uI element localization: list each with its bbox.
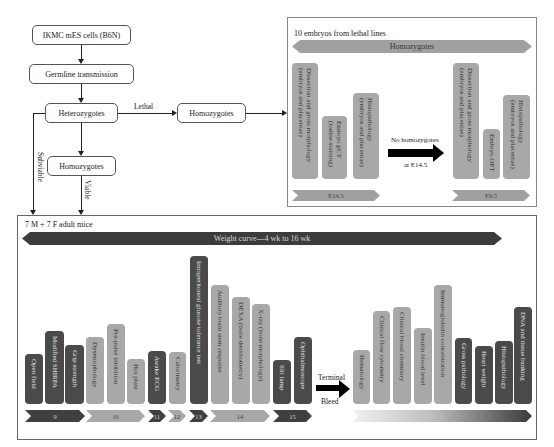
test-bar-clinical-flow-cytometry: Clinical flow cytometry bbox=[373, 311, 390, 404]
test-bar-slit-lamp: Slit lamp bbox=[273, 360, 291, 404]
test-bar-heart-weight: Heart weight bbox=[475, 346, 493, 404]
test-label: Hematology bbox=[358, 350, 366, 390]
test-label: Intraperitoneal glucose tolerance test bbox=[195, 256, 203, 364]
test-bar-grip-strength: Grip strength bbox=[65, 345, 84, 404]
lethal-connector bbox=[118, 113, 172, 114]
test-label: Clinical blood chemistry bbox=[398, 307, 406, 381]
weight-curve-label: Weight curve—4 wk to 16 wk bbox=[214, 234, 310, 243]
week-14-chevron: 14 bbox=[210, 410, 270, 422]
viable-connector bbox=[81, 176, 82, 210]
test-label: Auditory brain stem response bbox=[216, 285, 224, 373]
test-bar-embryo-uct: Embryo μCT (iodine staining) bbox=[322, 116, 347, 179]
test-label: Modified SHIRPA bbox=[51, 331, 59, 388]
homozygotes-lethal-box: Homozygotes bbox=[177, 103, 246, 123]
test-bar-gross-pathology: Gross pathology bbox=[455, 338, 472, 404]
connector-line bbox=[81, 84, 82, 98]
test-label: Slit lamp bbox=[278, 360, 286, 390]
test-label: Heart weight bbox=[480, 346, 488, 387]
test-label: Clinical flow cytometry bbox=[378, 311, 386, 383]
adult-panel-title: 7 M + 7 F adult mice bbox=[25, 220, 93, 229]
ikmc-cells-box: IKMC mES cells (B6N) bbox=[32, 25, 131, 45]
at-e145-label: at E14.5 bbox=[404, 161, 427, 169]
lethal-label: Lethal bbox=[134, 102, 153, 111]
terminal-bleed-arrow-icon bbox=[316, 385, 340, 391]
week-label: 14 bbox=[237, 413, 244, 420]
homozygotes-lethal-label: Homozygotes bbox=[189, 109, 233, 118]
connector-line bbox=[81, 123, 82, 151]
test-bar-auditory-brainstem: Auditory brain stem response bbox=[211, 285, 229, 404]
test-bar-xray: X-ray (bone morphology) bbox=[252, 304, 270, 404]
week-9-chevron: 9 bbox=[25, 410, 85, 422]
stage-e95-label: E9.5 bbox=[485, 192, 497, 199]
test-label: Histopathology bbox=[500, 341, 508, 389]
test-label: Dysmorphology bbox=[91, 337, 99, 388]
test-label: DEXA (bone densitometry) bbox=[237, 297, 245, 379]
test-bar-histopathology-e145: Histopathology (embryos and placentae) bbox=[353, 93, 379, 179]
test-bar-pre-pulse-inhibition: Pre-pulse inhibition bbox=[107, 324, 125, 404]
test-bar-open-field: Open field bbox=[25, 354, 43, 404]
test-bar-hot-plate: Hot plate bbox=[127, 359, 145, 404]
test-bar-ophthalmoscope: Ophthalmoscope bbox=[294, 337, 312, 404]
heterozygotes-label: Heterozygotes bbox=[58, 109, 104, 118]
bleed-label: Bleed bbox=[321, 397, 339, 406]
homozygotes-banner: Homozygotes bbox=[292, 40, 532, 53]
test-bar-clinical-blood-chemistry: Clinical blood chemistry bbox=[393, 307, 411, 404]
test-label: Histopathology (embryos and placentae) bbox=[509, 95, 525, 169]
subviable-label: Subviable bbox=[36, 152, 45, 182]
week-label: 16 bbox=[439, 413, 446, 420]
test-label: Grip strength bbox=[71, 345, 79, 387]
test-bar-modified-shirpa: Modified SHIRPA bbox=[45, 331, 64, 404]
test-bar-calorimetry: Calorimetry bbox=[169, 352, 186, 404]
week-label: 11 bbox=[154, 413, 160, 420]
test-bar-immunoglobulin: Immunoglobulin concentration bbox=[434, 285, 452, 404]
subviable-connector-v bbox=[33, 113, 34, 210]
homozygotes-viable-box: Homozygotes bbox=[47, 156, 116, 176]
test-bar-histopathology-e95: Histopathology (embryos and placentae) bbox=[503, 95, 530, 179]
connector-line bbox=[81, 45, 82, 59]
week-label: 13 bbox=[195, 413, 202, 420]
test-label: DNA and tissue banking bbox=[519, 307, 527, 381]
test-bar-histopathology: Histopathology bbox=[495, 341, 513, 404]
test-label: X-ray (bone morphology) bbox=[257, 304, 265, 381]
week-label: 10 bbox=[112, 413, 119, 420]
test-label: Histopathology (embryos and placentae) bbox=[358, 93, 374, 167]
test-label: Embryo OPT bbox=[488, 129, 496, 172]
no-homozygotes-label: No homozygotes bbox=[391, 136, 439, 144]
heterozygotes-box: Heterozygotes bbox=[45, 103, 118, 123]
stage-e145-chevron: E14.5 bbox=[292, 190, 380, 201]
stage-e95-chevron: E9.5 bbox=[452, 190, 530, 201]
week-label: 15 bbox=[289, 413, 296, 420]
ikmc-cells-label: IKMC mES cells (B6N) bbox=[43, 31, 121, 40]
test-label: Immunoglobulin concentration bbox=[439, 285, 447, 377]
test-label: Dissection and gross morphology (embryos… bbox=[458, 63, 474, 162]
test-label: Dissection and gross morphology (embryos… bbox=[297, 63, 313, 162]
test-label: Insulin blood level bbox=[419, 328, 427, 386]
test-bar-dissection-e95: Dissection and gross morphology (embryos… bbox=[453, 63, 479, 179]
test-bar-dysmorphology: Dysmorphology bbox=[86, 337, 104, 404]
weight-curve-banner: Weight curve—4 wk to 16 wk bbox=[22, 232, 502, 245]
week-label: 12 bbox=[174, 413, 181, 420]
test-label: Gross pathology bbox=[460, 338, 468, 389]
stage-e145-label: E14.5 bbox=[328, 192, 343, 199]
to-embryo-connector bbox=[246, 113, 282, 114]
embryo-panel-title: 10 embryos from lethal lines bbox=[294, 29, 386, 38]
test-label: Hot plate bbox=[132, 359, 140, 390]
test-label: Ophthalmoscope bbox=[299, 337, 307, 389]
transition-arrow-icon bbox=[388, 149, 434, 157]
homozygotes-banner-label: Homozygotes bbox=[390, 42, 434, 51]
week-label: 9 bbox=[53, 413, 56, 420]
viable-label: Viable bbox=[83, 180, 92, 200]
week-10-chevron: 10 bbox=[86, 410, 145, 422]
test-label: Pre-pulse inhibition bbox=[112, 324, 120, 384]
test-bar-dna-tissue-banking: DNA and tissue banking bbox=[514, 307, 532, 404]
test-bar-dissection-e145: Dissection and gross morphology (embryos… bbox=[292, 63, 318, 179]
test-label: Calorimetry bbox=[174, 352, 182, 391]
test-label: Awake ECG bbox=[153, 351, 161, 391]
test-bar-dexa: DEXA (bone densitometry) bbox=[232, 297, 250, 404]
homozygotes-viable-label: Homozygotes bbox=[59, 162, 103, 171]
germline-transmission-label: Germline transmission bbox=[45, 70, 118, 79]
test-label: Embryo μCT (iodine staining) bbox=[327, 116, 343, 167]
subviable-connector-h bbox=[33, 113, 45, 114]
test-bar-embryo-opt: Embryo OPT bbox=[483, 129, 500, 179]
test-bar-ipgtt: Intraperitoneal glucose tolerance test bbox=[190, 256, 208, 404]
